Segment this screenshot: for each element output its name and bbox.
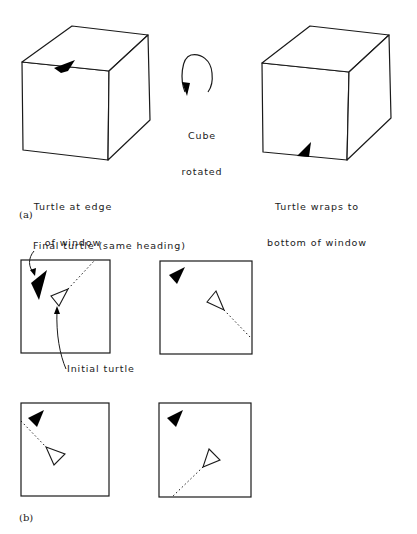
cube-left-front-face: [22, 62, 109, 160]
path-dotted-line: [21, 421, 46, 447]
caption-line: bottom of window: [262, 237, 372, 249]
final-turtle-icon: [28, 410, 44, 427]
initial-turtle-icon: [206, 292, 224, 310]
initial-turtle-icon: [203, 449, 220, 467]
initial-turtle-pointer-arrow: [57, 310, 66, 369]
rotation-caption: Cube rotated: [172, 106, 232, 190]
path-dotted-line: [224, 310, 251, 338]
final-turtle-annotation: Final turtle (same heading): [33, 240, 186, 252]
caption-line: Turtle wraps to: [262, 201, 372, 213]
caption-line: Cube: [172, 130, 232, 142]
diagram-canvas: [0, 0, 417, 534]
initial-turtle-icon: [207, 291, 224, 310]
cube-right: [262, 26, 391, 160]
caption-line: Turtle at edge: [28, 201, 118, 213]
initial-turtle-icon: [51, 289, 68, 306]
panel-b-label: (b): [19, 512, 33, 523]
window-top-right: [160, 261, 252, 354]
final-turtle-icon: [31, 270, 47, 300]
rotation-arrow-icon: [182, 55, 212, 96]
final-turtle-icon: [169, 267, 185, 284]
right-cube-caption: Turtle wraps to bottom of window: [262, 177, 372, 261]
panel-a-label: (a): [19, 209, 33, 220]
caption-line: rotated: [172, 166, 232, 178]
final-turtle-icon: [167, 410, 183, 427]
path-dotted-line: [68, 260, 95, 289]
initial-turtle-annotation: Initial turtle: [67, 363, 135, 375]
window-bottom-left: [21, 403, 109, 496]
initial-turtle-icon: [46, 447, 65, 465]
cube-left: [22, 26, 150, 160]
cube-right-front-face: [262, 63, 349, 160]
path-dotted-line: [172, 467, 203, 497]
window-bottom-right: [159, 403, 251, 497]
